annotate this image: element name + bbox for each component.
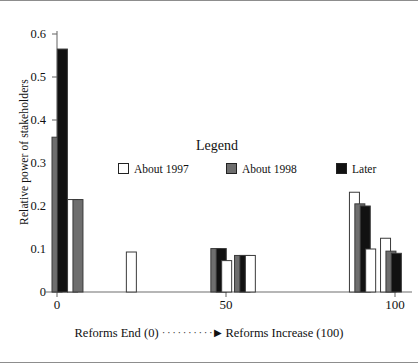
chart-canvas <box>0 1 418 363</box>
legend-swatch-icon-1 <box>226 163 237 174</box>
arrow-icon: ▶ <box>214 327 222 338</box>
bar-about-1997-14 <box>366 249 376 292</box>
figure-container: Relative power of stakeholders 00.10.20.… <box>0 0 418 363</box>
legend-item-1[interactable]: About 1998 <box>226 163 297 179</box>
legend-swatch-icon-0 <box>118 163 129 174</box>
x-axis-title-right: Reforms Increase (100) <box>225 326 343 340</box>
bar-later-17 <box>391 253 401 292</box>
chart-plot-area: Relative power of stakeholders 00.10.20.… <box>0 1 418 363</box>
bar-about-1998-3 <box>73 200 83 292</box>
bar-about-1997-10 <box>245 255 255 292</box>
x-axis-title-left: Reforms End (0) <box>75 326 159 340</box>
legend-title: Legend <box>196 138 238 154</box>
bar-about-1997-4 <box>126 252 136 292</box>
legend-item-2[interactable]: Later <box>336 163 376 179</box>
legend-item-0[interactable]: About 1997 <box>118 163 189 179</box>
dotted-leader: ·········· <box>162 326 215 338</box>
bar-later-1 <box>57 49 67 292</box>
legend-label-0: About 1997 <box>134 163 189 175</box>
bar-about-1997-7 <box>222 261 232 292</box>
legend: About 1997About 1998Later <box>118 163 388 179</box>
x-axis-title: Reforms End (0) ··········▶ Reforms Incr… <box>0 326 418 341</box>
legend-label-2: Later <box>352 163 376 175</box>
legend-label-1: About 1998 <box>242 163 297 175</box>
legend-swatch-icon-2 <box>336 163 347 174</box>
